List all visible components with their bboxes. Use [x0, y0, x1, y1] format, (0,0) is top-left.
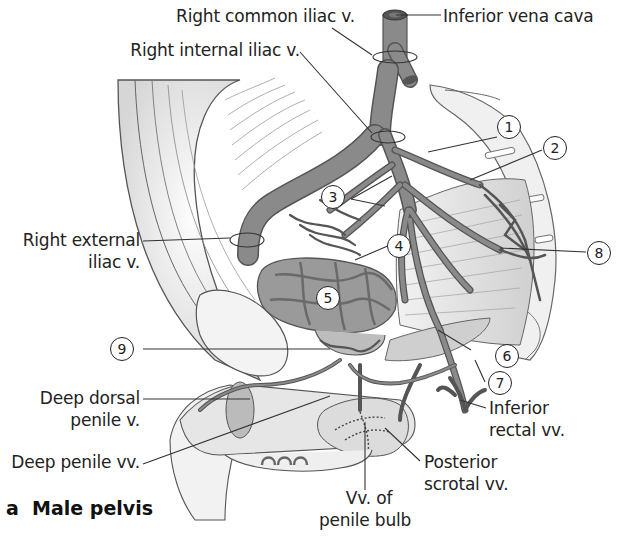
callout-5: 5 — [316, 286, 340, 310]
label-veins-of-penile-bulb-line2: penile bulb — [315, 510, 415, 531]
callout-2: 2 — [543, 136, 567, 160]
callout-9: 9 — [110, 337, 134, 361]
label-deep-dorsal-penile-vein-line2: penile v. — [10, 410, 140, 431]
label-inferior-vena-cava: Inferior vena cava — [443, 6, 594, 27]
label-posterior-scrotal-veins-line1: Posterior — [424, 452, 497, 473]
callout-4: 4 — [387, 234, 411, 258]
callout-3: 3 — [321, 185, 345, 209]
caption-title: Male pelvis — [32, 497, 153, 519]
label-right-common-iliac-vein: Right common iliac v. — [130, 6, 355, 27]
label-deep-penile-veins: Deep penile vv. — [0, 452, 140, 473]
caption-letter: a — [6, 497, 19, 519]
label-inferior-rectal-veins-line2: rectal vv. — [489, 420, 565, 441]
label-inferior-rectal-veins-line1: Inferior — [489, 398, 549, 419]
callout-8: 8 — [587, 241, 611, 265]
label-right-internal-iliac-vein: Right internal iliac v. — [100, 40, 300, 61]
callout-7: 7 — [488, 371, 512, 395]
male-pelvis-venous-diagram: Right common iliac v. Inferior vena cava… — [0, 0, 619, 555]
callout-1: 1 — [497, 115, 521, 139]
label-right-external-iliac-vein-line1: Right external — [10, 230, 140, 251]
label-veins-of-penile-bulb-line1: Vv. of — [330, 488, 408, 509]
label-right-external-iliac-vein-line2: iliac v. — [10, 252, 140, 273]
label-deep-dorsal-penile-vein-line1: Deep dorsal — [10, 388, 140, 409]
label-posterior-scrotal-veins-line2: scrotal vv. — [424, 474, 508, 495]
callout-6: 6 — [495, 344, 519, 368]
figure-caption: a Male pelvis — [6, 497, 153, 519]
